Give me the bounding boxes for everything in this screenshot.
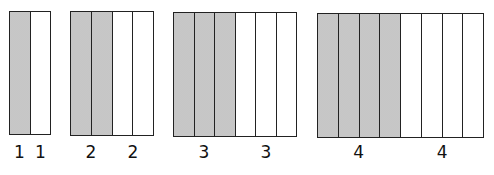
unshaded-count-label: 2: [128, 144, 139, 161]
shaded-part: [10, 12, 31, 134]
unshaded-part: [256, 13, 277, 136]
unshaded-part: [443, 14, 464, 137]
fraction-rectangle-1: [9, 11, 51, 135]
unshaded-count-label: 1: [35, 144, 46, 161]
unshaded-count-label: 3: [261, 144, 272, 161]
shaded-part: [174, 13, 195, 136]
shaded-part: [380, 14, 401, 137]
unshaded-part: [422, 14, 443, 137]
shaded-count-label: 3: [199, 144, 210, 161]
shaded-part: [92, 12, 113, 135]
fraction-rectangle-3: [173, 12, 297, 137]
shaded-part: [215, 13, 236, 136]
unshaded-part: [463, 14, 483, 137]
shaded-count-label: 4: [353, 144, 364, 161]
unshaded-count-label: 4: [437, 144, 448, 161]
shaded-part: [360, 14, 381, 137]
unshaded-part: [31, 12, 51, 134]
shaded-part: [71, 12, 92, 135]
unshaded-part: [236, 13, 257, 136]
unshaded-part: [133, 12, 153, 135]
unshaded-part: [277, 13, 297, 136]
unshaded-part: [113, 12, 134, 135]
shaded-part: [339, 14, 360, 137]
shaded-part: [318, 14, 339, 137]
unshaded-part: [401, 14, 422, 137]
fraction-rectangle-4: [317, 13, 484, 138]
shaded-part: [195, 13, 216, 136]
shaded-count-label: 1: [14, 144, 25, 161]
fraction-rectangle-2: [70, 11, 154, 136]
shaded-count-label: 2: [86, 144, 97, 161]
